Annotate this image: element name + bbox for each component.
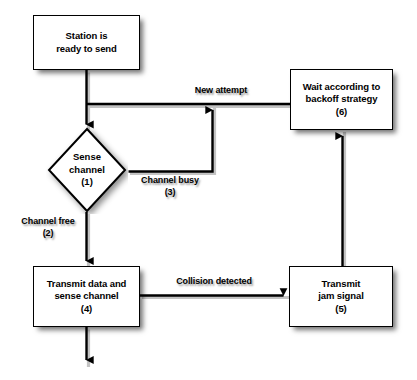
node-sense-channel[interactable]: Sense channel (1) [46,126,128,214]
edge-label-channel-free: Channel free (2) [12,216,84,239]
node-transmit-jam[interactable]: Transmit jam signal (5) [289,266,393,327]
node-transmit-data[interactable]: Transmit data and sense channel (4) [33,266,140,327]
node-sense-channel-label: Sense channel (1) [46,151,128,189]
node-station-ready[interactable]: Station is ready to send [33,15,140,70]
flowchart-diagram: Station is ready to send Sense channel (… [0,0,417,380]
edge-channel-busy [129,110,213,172]
edge-label-new-attempt: New attempt [178,85,264,97]
node-wait-backoff[interactable]: Wait according to backoff strategy (6) [290,69,393,130]
edge-label-collision-detected: Collision detected [163,276,265,288]
node-transmit-jam-label: Transmit jam signal (5) [318,278,363,316]
edge-label-channel-busy: Channel busy (3) [127,175,213,198]
node-wait-backoff-label: Wait according to backoff strategy (6) [303,81,381,119]
node-station-ready-label: Station is ready to send [56,30,116,55]
node-transmit-data-label: Transmit data and sense channel (4) [47,278,127,316]
